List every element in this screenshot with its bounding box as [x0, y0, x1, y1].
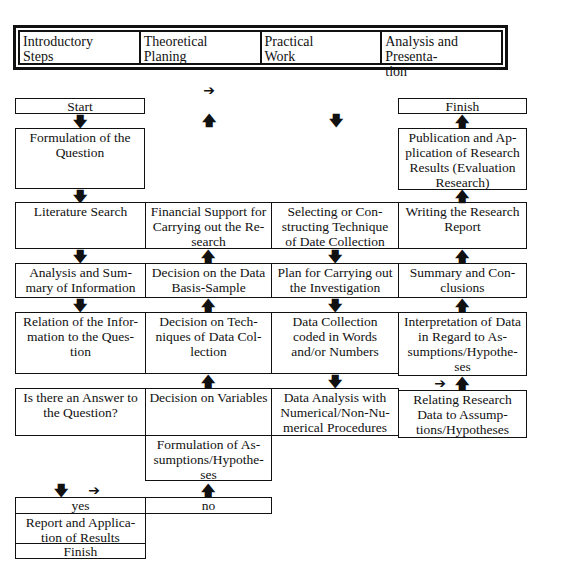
finish-left-box: Finish — [15, 543, 146, 559]
literature-search-box: Literature Search — [15, 202, 146, 249]
arrow-right-icon: ➔ — [86, 483, 102, 497]
start-box: Start — [15, 98, 145, 114]
relating-data-box: Relating Research Data to Assump- tions/… — [398, 390, 527, 438]
selecting-technique-box: Selecting or Con- structing Technique of… — [271, 202, 399, 249]
data-analysis-box: Data Analysis with Numerical/Non-Nu- mer… — [271, 388, 399, 436]
arrow-down-icon: 🡇 — [327, 298, 343, 312]
decision-sample-box: Decision on the Data Basis-Sample — [145, 263, 272, 298]
decision-variables-box: Decision on Variables — [145, 388, 272, 436]
publication-box: Publication and Ap- plication of Researc… — [398, 128, 527, 190]
arrow-up-icon: 🡅 — [200, 374, 216, 388]
arrow-up-icon: 🡅 — [454, 114, 470, 128]
phase-analysis-presentation: Analysis and Presenta- tion — [382, 32, 501, 63]
arrow-up-icon: 🡅 — [454, 249, 470, 263]
arrow-up-icon: 🡅 — [454, 376, 470, 390]
interpretation-data-box: Interpretation of Data in Regard to As- … — [398, 312, 527, 376]
arrow-down-icon: 🡇 — [53, 483, 69, 497]
phase-theoretical-planing: Theoretical Planing — [141, 32, 262, 63]
phase-header-inner: Introductory Steps Theoretical Planing P… — [18, 30, 503, 65]
arrow-down-icon: 🡇 — [327, 249, 343, 263]
plan-investigation-box: Plan for Carrying out the Investigation — [271, 263, 399, 298]
arrow-up-icon: 🡅 — [201, 113, 217, 127]
arrow-up-icon: 🡅 — [200, 249, 216, 263]
arrow-up-icon: 🡅 — [454, 189, 470, 203]
arrow-up-icon: 🡅 — [454, 298, 470, 312]
formulation-question-box: Formulation of the Question — [15, 128, 145, 189]
finish-right-box: Finish — [398, 98, 527, 114]
arrow-up-icon: 🡅 — [200, 483, 216, 497]
phase-header: Introductory Steps Theoretical Planing P… — [13, 25, 508, 70]
phase-introductory-steps: Introductory Steps — [20, 32, 141, 63]
arrow-down-icon: 🡇 — [72, 249, 88, 263]
relation-information-box: Relation of the Infor- mation to the Que… — [15, 312, 146, 374]
analysis-summary-box: Analysis and Sum- mary of Information — [15, 263, 146, 298]
financial-support-box: Financial Support for Carrying out the R… — [145, 202, 272, 249]
phase-practical-work: Practical Work — [262, 32, 383, 63]
report-application-box: Report and Applica- tion of Results — [15, 513, 146, 544]
arrow-right-icon: ➔ — [201, 83, 217, 97]
arrow-down-icon: 🡇 — [72, 298, 88, 312]
arrow-up-icon: 🡅 — [200, 298, 216, 312]
decision-techniques-box: Decision on Tech- niques of Data Col- le… — [145, 312, 272, 374]
arrow-right-icon: ➔ — [432, 376, 448, 390]
arrow-down-icon: 🡇 — [72, 114, 88, 128]
arrow-down-icon: 🡇 — [328, 113, 344, 127]
arrow-down-icon: 🡇 — [72, 189, 88, 203]
arrow-down-icon: 🡇 — [327, 374, 343, 388]
yes-box: yes — [15, 497, 146, 514]
answer-question-box: Is there an Answer to the Question? — [15, 388, 146, 436]
writing-report-box: Writing the Research Report — [398, 202, 527, 249]
no-box: no — [145, 497, 272, 514]
formulation-assumptions-box: Formulation of As- sumptions/Hypothe- se… — [145, 435, 272, 481]
data-collection-box: Data Collection coded in Words and/or Nu… — [271, 312, 399, 374]
summary-conclusions-box: Summary and Con- clusions — [398, 263, 527, 298]
